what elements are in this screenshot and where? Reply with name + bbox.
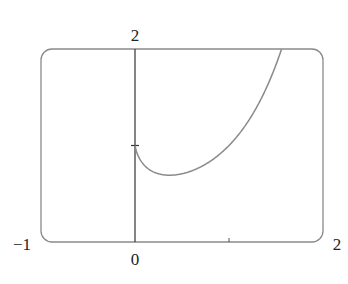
y-max-label: 2 [131, 26, 140, 45]
x-origin-label: 0 [131, 250, 140, 269]
x-max-label: 2 [333, 235, 342, 254]
viewing-window-frame [41, 49, 323, 242]
x-min-label: −1 [13, 235, 31, 254]
plot-area: 2 −1 0 2 [0, 0, 348, 284]
function-curve [135, 49, 282, 175]
